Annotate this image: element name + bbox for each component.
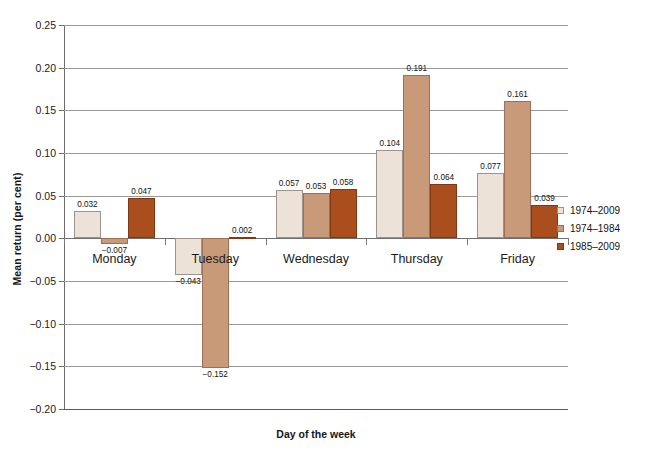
x-axis-category-label: Monday xyxy=(92,252,136,266)
y-tick-label: 0.10 xyxy=(12,147,56,159)
y-tick-mark xyxy=(59,25,64,26)
legend-label-2: 1985–2009 xyxy=(570,241,620,252)
bar[interactable] xyxy=(101,238,128,244)
bar[interactable] xyxy=(531,205,558,238)
bar-group xyxy=(276,25,357,409)
y-tick-label: 0.05 xyxy=(12,190,56,202)
x-axis-category-label: Friday xyxy=(500,252,535,266)
x-axis-category-label: Thursday xyxy=(391,252,443,266)
y-tick-mark xyxy=(59,68,64,69)
plot-area: 0.032−0.0070.047−0.043−0.1520.0020.0570.… xyxy=(64,25,568,409)
y-tick-label: −0.20 xyxy=(12,403,56,415)
legend-item-1[interactable]: 1974–1984 xyxy=(557,223,620,234)
bar[interactable] xyxy=(303,193,330,238)
bar[interactable] xyxy=(477,173,504,239)
legend-label-1: 1974–1984 xyxy=(570,223,620,234)
bar[interactable] xyxy=(376,150,403,239)
y-tick-label: 0.00 xyxy=(12,232,56,244)
y-tick-mark xyxy=(59,153,64,154)
y-tick-mark xyxy=(59,110,64,111)
y-tick-label: −0.10 xyxy=(12,318,56,330)
legend-swatch-icon-2 xyxy=(557,243,564,250)
y-tick-label: 0.25 xyxy=(12,19,56,31)
y-tick-mark xyxy=(59,366,64,367)
x-tick-mark xyxy=(165,238,166,245)
y-axis-spine xyxy=(64,25,65,409)
legend-label-0: 1974–2009 xyxy=(570,205,620,216)
y-tick-mark xyxy=(59,196,64,197)
gridline xyxy=(64,409,568,410)
legend: 1974–2009 1974–1984 1985–2009 xyxy=(557,205,620,252)
x-tick-mark xyxy=(266,238,267,245)
legend-item-0[interactable]: 1974–2009 xyxy=(557,205,620,216)
bar[interactable] xyxy=(504,101,531,238)
y-tick-label: −0.15 xyxy=(12,360,56,372)
bar[interactable] xyxy=(276,190,303,239)
legend-swatch-icon-1 xyxy=(557,225,564,232)
bar[interactable] xyxy=(330,189,357,238)
x-axis-title: Day of the week xyxy=(64,428,568,440)
bar-group xyxy=(74,25,155,409)
bar[interactable] xyxy=(430,184,457,239)
bar[interactable] xyxy=(128,198,155,238)
x-axis-category-label: Tuesday xyxy=(191,252,238,266)
bar[interactable] xyxy=(74,211,101,238)
x-tick-mark xyxy=(64,238,65,245)
x-tick-mark xyxy=(467,238,468,245)
x-axis-category-label: Wednesday xyxy=(283,252,349,266)
y-tick-label: 0.20 xyxy=(12,62,56,74)
y-tick-label: 0.15 xyxy=(12,104,56,116)
bar-group xyxy=(477,25,558,409)
bar-group xyxy=(175,25,256,409)
y-tick-mark xyxy=(59,409,64,410)
legend-swatch-icon-0 xyxy=(557,207,564,214)
x-tick-mark xyxy=(366,238,367,245)
bar[interactable] xyxy=(229,237,256,239)
bar-chart: Mean return (per cent) 0.032−0.0070.047−… xyxy=(0,0,645,458)
bar-group xyxy=(376,25,457,409)
y-tick-mark xyxy=(59,281,64,282)
y-tick-label: −0.05 xyxy=(12,275,56,287)
legend-item-2[interactable]: 1985–2009 xyxy=(557,241,620,252)
y-tick-mark xyxy=(59,324,64,325)
bar[interactable] xyxy=(403,75,430,238)
